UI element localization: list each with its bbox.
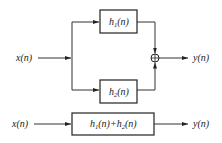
block-h2: h2(n) <box>100 80 137 103</box>
parallel-configuration: x(n) h1(n) h2(n) y(n) <box>15 10 210 103</box>
equivalent-configuration: x(n) h1(n)+h2(n) y(n) <box>11 113 210 135</box>
h2-output-arrow <box>137 63 155 91</box>
block-sum: h1(n)+h2(n) <box>72 113 154 135</box>
output-label-equivalent: y(n) <box>192 118 210 130</box>
input-label-equivalent: x(n) <box>11 118 29 130</box>
summing-junction-icon <box>151 54 159 62</box>
output-label-parallel: y(n) <box>192 52 210 64</box>
input-label-parallel: x(n) <box>15 52 33 64</box>
block-h2-label: h2(n) <box>109 86 130 98</box>
parallel-system-diagram: x(n) h1(n) h2(n) y(n) x(n) h1(n)+h2(n) <box>0 0 222 143</box>
block-h1-label: h1(n) <box>109 16 130 28</box>
block-h1: h1(n) <box>100 10 137 33</box>
h1-output-arrow <box>137 22 155 54</box>
